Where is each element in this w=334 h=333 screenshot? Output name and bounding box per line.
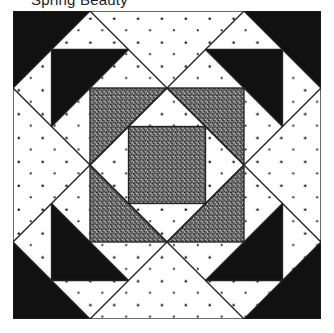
block-title: Spring Beauty [31, 0, 128, 7]
quilt-block-drawing [13, 11, 321, 319]
quilt-block [13, 11, 321, 319]
center-square [129, 127, 206, 204]
